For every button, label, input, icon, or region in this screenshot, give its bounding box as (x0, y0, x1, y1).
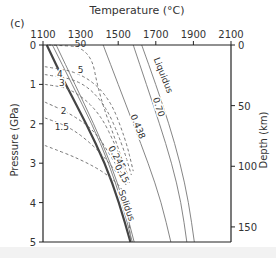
series-line (52, 45, 132, 242)
y-tick-label: 4 (30, 198, 36, 209)
y2-tick-label: 0 (238, 40, 244, 51)
line-label: 50 (75, 39, 87, 49)
line-label: 1.5 (55, 122, 69, 132)
line-label: 0.70 (151, 96, 167, 118)
line-label: 5 (78, 65, 84, 75)
x-tick-label: 1500 (105, 29, 130, 40)
x-tick-label: 1700 (143, 29, 168, 40)
y-tick-labels: 012345 (30, 40, 43, 248)
y-axis-title: Pressure (GPa) (9, 103, 20, 176)
line-labels: LiquidusLiquidus0.700.700.4380.4380.2450… (55, 39, 175, 223)
y-tick-label: 0 (30, 40, 36, 51)
x-axis-title: Temperature (°C) (89, 4, 185, 17)
y-tick-label: 1 (30, 79, 36, 90)
y2-tick-label: 50 (238, 101, 251, 112)
line-label: 0.438 (128, 113, 147, 141)
line-label: 2 (61, 106, 67, 116)
y2-tick-label: 150 (238, 222, 257, 233)
y-tick-label: 3 (30, 158, 36, 169)
x-tick-label: 1900 (181, 29, 206, 40)
x-tick-label: 2100 (218, 29, 243, 40)
line-label: Liquidus (152, 56, 175, 95)
series-lines (45, 45, 194, 242)
x-tick-label: 1100 (30, 29, 55, 40)
y2-tick-labels: 050100150 (231, 40, 257, 233)
line-label: 4 (57, 69, 63, 79)
line-label: 3 (59, 78, 65, 88)
y2-tick-label: 100 (238, 161, 257, 172)
chart: (c) Temperature (°C) Pressure (GPa) Dept… (0, 0, 276, 258)
footer-strip (0, 247, 276, 258)
panel-label: (c) (10, 17, 25, 30)
y2-axis-title: Depth (km) (258, 111, 269, 168)
x-tick-labels: 110013001500170019002100 (30, 29, 243, 45)
y-tick-label: 2 (30, 119, 36, 130)
